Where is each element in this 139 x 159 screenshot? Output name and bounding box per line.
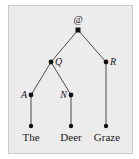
- leaf-deer: Deer: [60, 131, 82, 143]
- label-r: R: [109, 56, 116, 67]
- label-q: Q: [55, 56, 63, 67]
- parse-tree-diagram: @ Q R A N The Deer Graze: [0, 0, 139, 159]
- label-a: A: [20, 89, 28, 100]
- node-a: [29, 93, 34, 98]
- node-n: [69, 93, 74, 98]
- leaf-the: The: [22, 131, 39, 143]
- leaf-graze: Graze: [94, 131, 120, 143]
- label-root: @: [73, 14, 82, 25]
- node-q: [49, 60, 54, 65]
- node-deer: [69, 124, 73, 128]
- edge-q-a: [31, 62, 51, 95]
- tree-edges: [31, 30, 106, 126]
- node-r: [104, 60, 109, 65]
- node-the: [29, 124, 33, 128]
- edge-root-r: [78, 30, 106, 62]
- node-graze: [104, 124, 108, 128]
- tree-nodes: [29, 28, 109, 129]
- node-root: [76, 28, 81, 33]
- label-n: N: [59, 89, 68, 100]
